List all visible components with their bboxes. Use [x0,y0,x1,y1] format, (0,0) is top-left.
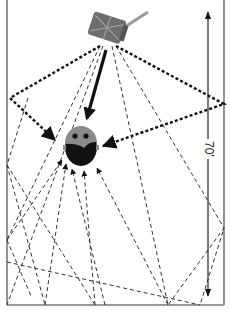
listener-head-icon [63,126,99,166]
early-reflection-paths [10,46,224,146]
reflection-diagram [0,0,230,321]
speaker-icon [87,11,148,45]
dimension-label: 70' [199,139,219,159]
late-reflection-paths [7,46,224,305]
room-walls [7,0,224,305]
direct-sound-arrow [87,50,106,118]
